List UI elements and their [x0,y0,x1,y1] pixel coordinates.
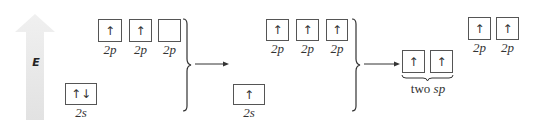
orbital-box-2p-2: ↑ [296,19,319,41]
reaction-arrow-icon [195,60,229,68]
orbital-label: 2p [158,42,181,58]
orbital-box-2p-1: ↑ [468,17,491,40]
orbital-box-2p-1: ↑ [98,19,122,42]
orbital-box-sp-1: ↑ [402,50,425,73]
orbital-label: 2p [98,42,122,58]
sp-label-prefix: two [411,81,434,96]
orbital-box-2p-3 [158,19,181,42]
orbital-box-sp-2: ↑ [430,50,453,73]
right-brace-icon [351,18,363,112]
orbital-label: 2s [233,105,265,121]
orbital-label: 2p [468,40,491,56]
sp-hybrid-label: two sp [392,81,464,97]
reaction-arrow-icon [364,60,400,68]
orbital-label: 2p [266,41,289,57]
right-brace-icon [182,18,194,112]
orbital-box-2s: ↑ [233,84,265,105]
orbital-box-2s: ↑↓ [65,83,97,105]
sp-label-italic: sp [434,81,446,96]
orbital-box-2p-1: ↑ [266,19,289,41]
orbital-label: 2p [129,42,152,58]
orbital-label: 2s [65,105,97,121]
orbital-label: 2p [496,40,519,56]
orbital-label: 2p [296,41,319,57]
energy-label: E [26,56,46,69]
orbital-box-2p-2: ↑ [496,17,519,40]
orbital-box-2p-3: ↑ [326,19,348,41]
orbital-label: 2p [326,41,348,57]
orbital-box-2p-2: ↑ [129,19,152,42]
